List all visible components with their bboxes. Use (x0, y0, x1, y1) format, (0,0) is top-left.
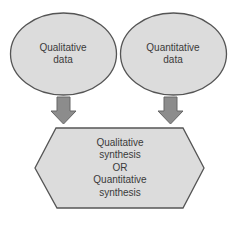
quantitative-data-label: Quantitative data (123, 42, 223, 66)
node-label-line: synthesis (60, 149, 180, 161)
node-label-line: data (123, 54, 223, 66)
arrow-down-icon (51, 97, 76, 124)
node-label-line: Quantitative (123, 42, 223, 54)
node-label-line: Qualitative (60, 137, 180, 149)
node-label-line: Qualitative (13, 42, 113, 54)
node-label-line: OR (60, 162, 180, 174)
node-label-line: Quantitative (60, 174, 180, 186)
synthesis-label: Qualitative synthesis OR Quantitative sy… (60, 137, 180, 199)
arrow-down-icon (158, 97, 183, 124)
node-label-line: data (13, 54, 113, 66)
node-label-line: synthesis (60, 187, 180, 199)
qualitative-data-label: Qualitative data (13, 42, 113, 66)
